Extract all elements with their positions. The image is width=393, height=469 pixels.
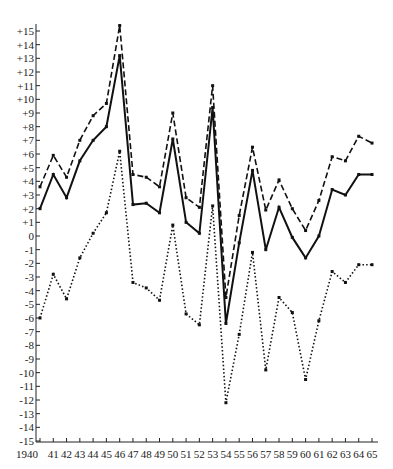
y-tick-label: +9 <box>22 107 34 119</box>
series-dotted-point <box>52 273 55 276</box>
y-tick-label: -10 <box>19 367 34 379</box>
series-solid-point <box>185 221 188 224</box>
series-solid-point <box>211 106 214 109</box>
series-dotted-point <box>131 281 134 284</box>
series-solid-point <box>357 173 360 176</box>
series-dashed-point <box>317 199 320 202</box>
x-tick-label: 41 <box>48 448 59 460</box>
y-tick-label: -9 <box>25 353 35 365</box>
series-dotted-line <box>40 151 372 402</box>
series-dashed-point <box>78 139 81 142</box>
x-tick-label: 55 <box>234 448 246 460</box>
series-dotted-point <box>371 263 374 266</box>
y-tick-label: -2 <box>25 257 34 269</box>
series-solid-point <box>371 173 374 176</box>
x-tick-label: 54 <box>220 448 232 460</box>
series-dotted-point <box>65 297 68 300</box>
x-tick-label: 46 <box>114 448 126 460</box>
y-tick-label: -3 <box>25 271 35 283</box>
y-tick-label: +15 <box>17 25 35 37</box>
y-tick-label: -11 <box>20 380 34 392</box>
series-dotted-point <box>291 311 294 314</box>
y-tick-label: +8 <box>22 121 34 133</box>
x-tick-label: 53 <box>207 448 219 460</box>
series-dotted-point <box>158 299 161 302</box>
y-tick-label: -5 <box>25 298 35 310</box>
series-solid-point <box>118 54 121 57</box>
y-tick-label: -13 <box>19 408 34 420</box>
series-solid-point <box>105 125 108 128</box>
y-tick-label: -1 <box>25 244 34 256</box>
series-dotted-point <box>331 270 334 273</box>
x-tick-label: 57 <box>260 448 272 460</box>
series-dashed-point <box>52 154 55 157</box>
series-solid-point <box>331 188 334 191</box>
series-dashed-point <box>145 176 148 179</box>
series-solid-point <box>264 248 267 251</box>
x-tick-label: 45 <box>101 448 113 460</box>
series-dashed-point <box>291 207 294 210</box>
x-tick-label: 42 <box>61 448 72 460</box>
series-dashed-point <box>264 209 267 212</box>
x-axis: 1940414243444546474849505152535455565758… <box>16 438 378 460</box>
series-solid-point <box>158 211 161 214</box>
y-tick-label: +6 <box>22 148 34 160</box>
series-dashed-point <box>118 24 121 27</box>
y-tick-label: 0 <box>29 230 35 242</box>
x-tick-label: 51 <box>181 448 192 460</box>
y-tick-label: +14 <box>17 39 35 51</box>
series-dotted-point <box>105 211 108 214</box>
y-tick-label: +2 <box>22 203 34 215</box>
series-solid-point <box>39 207 42 210</box>
series-solid-point <box>171 137 174 140</box>
series-dotted-point <box>238 333 241 336</box>
series-dotted-point <box>251 251 254 254</box>
series-solid-point <box>92 139 95 142</box>
series-dashed-point <box>65 176 68 179</box>
x-tick-label: 43 <box>74 448 86 460</box>
series-dotted-point <box>317 319 320 322</box>
series-dotted-point <box>264 368 267 371</box>
series-dotted-point <box>171 224 174 227</box>
series-dashed-point <box>131 173 134 176</box>
series-dashed-point <box>92 114 95 117</box>
series-dashed-point <box>185 196 188 199</box>
x-tick-label: 65 <box>367 448 379 460</box>
series-solid-point <box>131 203 134 206</box>
series-solid-point <box>238 241 241 244</box>
series-solid-point <box>52 173 55 176</box>
series-dotted-point <box>344 281 347 284</box>
y-tick-label: +13 <box>17 52 35 64</box>
y-tick-label: +11 <box>17 80 34 92</box>
y-tick-label: -8 <box>25 339 35 351</box>
series-solid-point <box>304 256 307 259</box>
series-solid-point <box>78 159 81 162</box>
y-tick-label: +5 <box>22 162 34 174</box>
series-solid-point <box>145 202 148 205</box>
series-solid-point <box>198 232 201 235</box>
plot-area <box>39 24 374 404</box>
x-tick-label: 58 <box>274 448 286 460</box>
x-tick-label: 56 <box>247 448 259 460</box>
x-tick-label: 44 <box>88 448 100 460</box>
series-dotted-point <box>39 317 42 320</box>
x-axis-ticks: 1940414243444546474849505152535455565758… <box>16 438 378 460</box>
x-tick-label: 60 <box>300 448 312 460</box>
x-tick-label: 52 <box>194 448 205 460</box>
series-solid-point <box>224 322 227 325</box>
x-tick-label: 49 <box>154 448 166 460</box>
series-dotted-point <box>357 263 360 266</box>
series-dashed-point <box>278 178 281 181</box>
line-chart: +15+14+13+12+11+10+9+8+7+6+5+4+3+2+10-1-… <box>0 0 393 469</box>
series-dotted-point <box>198 323 201 326</box>
series-dashed-point <box>238 214 241 217</box>
series-dashed-point <box>357 135 360 138</box>
x-tick-label: 48 <box>141 448 153 460</box>
series-dashed-point <box>371 142 374 145</box>
y-tick-label: +7 <box>22 134 34 146</box>
series-dashed-point <box>39 185 42 188</box>
series-solid-line <box>40 56 372 324</box>
x-tick-label: 47 <box>127 448 139 460</box>
series-dotted-point <box>118 150 121 153</box>
series-dashed-point <box>331 155 334 158</box>
